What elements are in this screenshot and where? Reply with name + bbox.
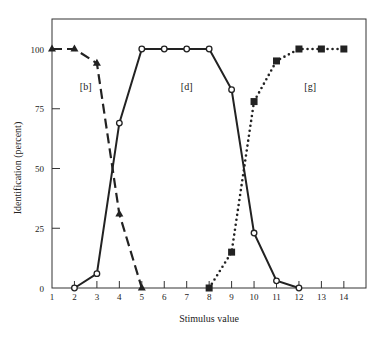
x-tick-label: 7 xyxy=(184,292,189,302)
open-circle-marker xyxy=(206,46,212,52)
y-tick-label: 0 xyxy=(40,284,45,294)
x-tick-label: 3 xyxy=(95,292,100,302)
x-tick-label: 1 xyxy=(50,292,55,302)
x-tick-label: 14 xyxy=(339,292,349,302)
y-tick-label: 50 xyxy=(35,164,45,174)
open-circle-marker xyxy=(274,278,280,284)
y-tick-label: 75 xyxy=(35,104,45,114)
filled-square-marker xyxy=(228,249,235,256)
y-axis-label: Identification (percent) xyxy=(12,122,24,214)
y-tick-label: 100 xyxy=(31,45,45,55)
y-tick-label: 25 xyxy=(35,224,45,234)
x-tick-label: 11 xyxy=(272,292,281,302)
open-circle-marker xyxy=(229,87,235,93)
x-tick-label: 5 xyxy=(140,292,145,302)
filled-square-marker xyxy=(340,46,347,53)
filled-triangle-marker xyxy=(138,284,146,291)
open-circle-marker xyxy=(296,285,302,291)
filled-square-marker xyxy=(251,98,258,105)
x-tick-label: 10 xyxy=(250,292,260,302)
filled-square-marker xyxy=(206,285,213,292)
curve-label: [d] xyxy=(181,81,193,92)
curve-label: [b] xyxy=(80,81,92,92)
open-circle-marker xyxy=(94,271,100,277)
x-tick-label: 8 xyxy=(207,292,212,302)
series-line-b xyxy=(52,49,142,288)
identification-chart: 0255075100 1234567891011121314 [b][d][g]… xyxy=(0,0,385,337)
plot-frame xyxy=(52,19,366,288)
x-axis: 1234567891011121314 xyxy=(50,281,349,302)
open-circle-marker xyxy=(72,285,78,291)
open-circle-marker xyxy=(117,120,123,126)
x-axis-label: Stimulus value xyxy=(179,313,239,324)
x-tick-label: 2 xyxy=(72,292,77,302)
filled-triangle-marker xyxy=(115,209,123,216)
filled-square-marker xyxy=(318,46,325,53)
open-circle-marker xyxy=(251,230,257,236)
open-circle-marker xyxy=(184,46,190,52)
curve-labels: [b][d][g] xyxy=(80,81,316,92)
x-tick-label: 13 xyxy=(317,292,327,302)
y-axis: 0255075100 xyxy=(31,45,61,294)
filled-square-marker xyxy=(273,57,280,64)
curve-label: [g] xyxy=(304,81,316,92)
x-tick-label: 9 xyxy=(229,292,234,302)
open-circle-marker xyxy=(161,46,167,52)
open-circle-marker xyxy=(139,46,145,52)
x-tick-label: 6 xyxy=(162,292,167,302)
x-tick-label: 12 xyxy=(294,292,303,302)
filled-square-marker xyxy=(295,46,302,53)
x-tick-label: 4 xyxy=(117,292,122,302)
data-series xyxy=(48,45,347,292)
